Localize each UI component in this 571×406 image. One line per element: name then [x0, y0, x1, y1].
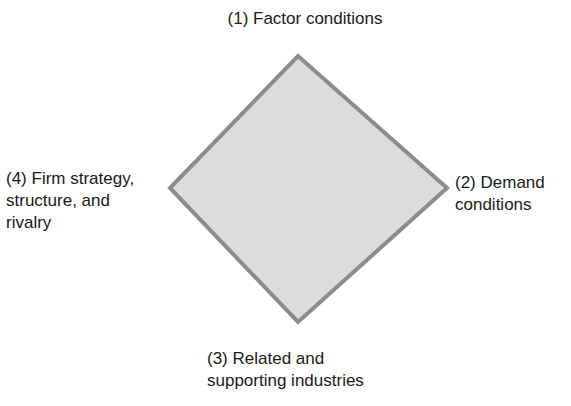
label-demand-conditions: (2) Demand conditions — [455, 172, 545, 216]
label-factor-conditions: (1) Factor conditions — [205, 8, 405, 30]
diamond-shape — [170, 56, 447, 322]
label-firm-strategy: (4) Firm strategy, structure, and rivalr… — [6, 168, 134, 234]
label-related-supporting-industries: (3) Related and supporting industries — [207, 348, 364, 392]
